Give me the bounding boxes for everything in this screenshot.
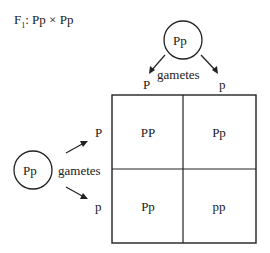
grid-cell: pp: [184, 200, 254, 213]
top-gamete-2: p: [219, 78, 226, 91]
top-gametes-label: gametes: [157, 68, 200, 81]
grid-cell: Pp: [113, 200, 183, 213]
left-gamete-1: P: [95, 126, 102, 139]
top-gamete-1: P: [143, 78, 150, 91]
grid-cell: PP: [113, 126, 183, 139]
grid-cell: Pp: [184, 126, 254, 139]
left-gamete-2: p: [95, 200, 102, 213]
left-gametes-label: gametes: [58, 164, 101, 177]
left-parent-genotype: Pp: [23, 164, 37, 177]
cross-title: F1: Pp × Pp: [14, 13, 73, 30]
top-parent-genotype: Pp: [173, 34, 187, 47]
